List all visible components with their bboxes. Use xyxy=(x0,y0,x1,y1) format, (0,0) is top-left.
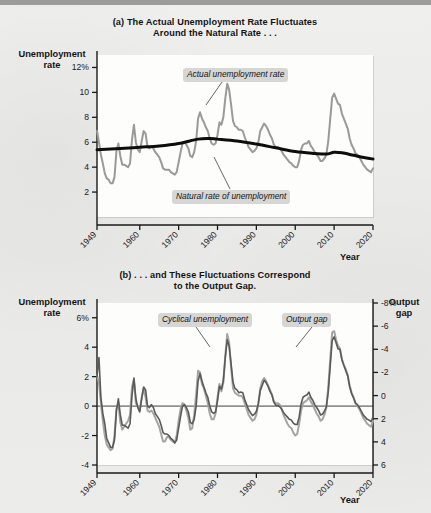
panel-a-annotation-actual: Actual unemployment rate xyxy=(183,68,288,82)
panel-a-y-tick-label: 6 xyxy=(84,137,89,147)
panel-b-y2-tick-label: 2 xyxy=(381,414,386,424)
panel-a-series-natural-rate xyxy=(97,138,373,159)
panel-b-x-tick-label: 2000 xyxy=(276,477,297,498)
panel-b-y2-tick-label: 4 xyxy=(381,437,386,447)
panel-b-y2-tick-label: 6 xyxy=(381,460,386,470)
panel-b-leader-cyclical xyxy=(196,327,210,347)
panel-b-y2-tick-label: -6 xyxy=(381,321,389,331)
panel-a-series-actual-unemployment xyxy=(97,84,373,184)
panel-b-x-tick-label: 1960 xyxy=(121,477,142,498)
panel-b: (b) . . . and These Fluctuations Corresp… xyxy=(0,263,431,513)
panel-b-y2-tick-label: -8% xyxy=(381,298,397,308)
panel-b-y2-tick-label: -4 xyxy=(381,344,389,354)
panel-a-x-tick-label: 2020 xyxy=(354,229,375,250)
panel-a-y-tick-label: 4 xyxy=(84,162,89,172)
panel-b-y-tick-label: -4 xyxy=(81,460,89,470)
panel-b-x-tick-label: 1970 xyxy=(159,477,180,498)
panel-b-y-tick-label: 4 xyxy=(84,342,89,352)
panel-a-x-axis-title: Year xyxy=(340,252,360,262)
panel-b-x-axis-title: Year xyxy=(340,495,360,505)
panel-a-annotation-natural: Natural rate of unemployment xyxy=(172,190,290,204)
panel-a-plot: 24681012%1949196019701980199020002010202… xyxy=(0,5,431,267)
panel-b-x-tick-label: 1990 xyxy=(237,477,258,498)
panel-a-x-tick-label: 2010 xyxy=(315,229,336,250)
panel-b-annotation-cyclical: Cyclical unemployment xyxy=(158,313,252,327)
panel-b-y2-tick-label: -2 xyxy=(381,367,389,377)
panel-b-y2-tick-label: 0 xyxy=(381,391,386,401)
panel-b-annotation-output-gap: Output gap xyxy=(282,313,331,327)
panel-a-x-tick-label: 1960 xyxy=(121,229,142,250)
panel-a-y-tick-label: 12% xyxy=(72,62,90,72)
panel-b-y-tick-label: 0 xyxy=(84,401,89,411)
panel-a-x-tick-label: 1990 xyxy=(237,229,258,250)
panel-a-y-tick-label: 8 xyxy=(84,112,89,122)
panel-b-leader-output-gap xyxy=(296,327,312,347)
panel-a-leader-actual xyxy=(206,82,222,105)
panel-b-x-tick-label: 1980 xyxy=(198,477,219,498)
panel-a-y-tick-label: 10 xyxy=(79,87,89,97)
panel-a-x-tick-label: 1970 xyxy=(159,229,180,250)
panel-a-leader-natural xyxy=(214,157,230,189)
panel-a-y-tick-label: 2 xyxy=(84,187,89,197)
panel-b-x-tick-label: 1949 xyxy=(78,477,99,498)
panel-b-x-tick-label: 2010 xyxy=(315,477,336,498)
panel-b-y-tick-label: 6% xyxy=(77,313,90,323)
panel-b-plot: -4-20246%-8%-6-4-20246194919601970198019… xyxy=(0,263,431,513)
panel-a-x-tick-label: 1949 xyxy=(78,229,99,250)
panel-a-x-tick-label: 2000 xyxy=(276,229,297,250)
panel-b-y-tick-label: -2 xyxy=(81,431,89,441)
panel-b-y-tick-label: 2 xyxy=(84,372,89,382)
panel-a-x-tick-label: 1980 xyxy=(198,229,219,250)
panel-a: (a) The Actual Unemployment Rate Fluctua… xyxy=(0,5,431,267)
